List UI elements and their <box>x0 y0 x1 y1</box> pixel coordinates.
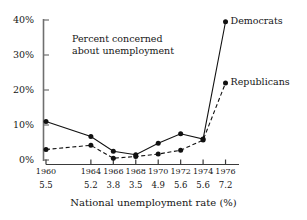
series-label-republicans: Republicans <box>231 76 290 87</box>
data-point-republicans-1970 <box>156 152 161 157</box>
series-label-democrats: Democrats <box>231 15 283 26</box>
data-point-republicans-1966 <box>111 156 116 161</box>
chart-figure: 0%10%20%30%40% 1960196419661968197019721… <box>0 0 307 220</box>
data-point-republicans-1974 <box>201 138 206 143</box>
y-axis-ticks <box>44 20 50 160</box>
data-point-republicans-1960 <box>44 147 49 152</box>
data-point-democrats-1960 <box>44 119 49 124</box>
x-axis-rate-label: 7.2 <box>213 180 239 190</box>
data-point-democrats-1966 <box>111 149 116 154</box>
x-axis-title: National unemployment rate (%) <box>0 197 307 208</box>
y-axis-tick-label: 10% <box>8 119 34 130</box>
y-axis-tick-label: 0% <box>8 154 34 165</box>
x-axis-year-label: 1960 <box>33 167 59 176</box>
x-axis-year-label: 1976 <box>213 167 239 176</box>
y-axis-tick-label: 40% <box>8 14 34 25</box>
data-point-democrats-1976 <box>223 19 228 24</box>
annotation-line-1: Percent concerned <box>72 33 174 45</box>
data-point-republicans-1972 <box>178 148 183 153</box>
data-point-republicans-1964 <box>88 143 93 148</box>
data-point-democrats-1972 <box>178 131 183 136</box>
data-point-democrats-1970 <box>156 141 161 146</box>
series-line-republicans <box>46 83 226 158</box>
data-point-democrats-1964 <box>88 134 93 139</box>
y-axis-tick-label: 20% <box>8 84 34 95</box>
x-axis-ticks <box>46 160 226 165</box>
x-axis-rate-label: 5.5 <box>33 180 59 190</box>
annotation-line-2: about unemployment <box>72 45 174 57</box>
y-axis-tick-label: 30% <box>8 49 34 60</box>
chart-annotation: Percent concerned about unemployment <box>72 33 174 57</box>
data-point-republicans-1968 <box>133 154 138 159</box>
data-point-republicans-1976 <box>223 81 228 86</box>
